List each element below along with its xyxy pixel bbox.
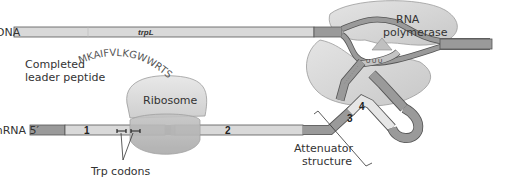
trp-codons-label: Trp codons bbox=[90, 165, 151, 178]
ribosome-label: Ribosome bbox=[143, 94, 198, 107]
rna-polymerase-label-line2: polymerase bbox=[383, 26, 448, 39]
segment-4-label: 4 bbox=[359, 101, 365, 112]
gene-label-trpl: trpL bbox=[138, 28, 154, 37]
completed-peptide-label-line2: leader peptide bbox=[25, 71, 105, 84]
completed-peptide-label-line1: Completed bbox=[25, 58, 85, 71]
dna-label: DNA bbox=[0, 26, 21, 39]
mrna-label: mRNA 5′ bbox=[0, 124, 40, 137]
uracil-run: U U U bbox=[366, 58, 382, 64]
trp-attenuation-diagram: DNA trpL U U U Ribosome bbox=[0, 0, 506, 186]
segment-3-label: 3 bbox=[347, 113, 353, 124]
rna-polymerase-label-line1: RNA bbox=[396, 13, 420, 26]
segment-1-label: 1 bbox=[84, 125, 90, 136]
attenuator-label-line1: Attenuator bbox=[294, 142, 353, 155]
segment-2-label: 2 bbox=[225, 125, 231, 136]
ribosome bbox=[127, 76, 207, 155]
attenuator-label-line2: structure bbox=[302, 155, 352, 168]
